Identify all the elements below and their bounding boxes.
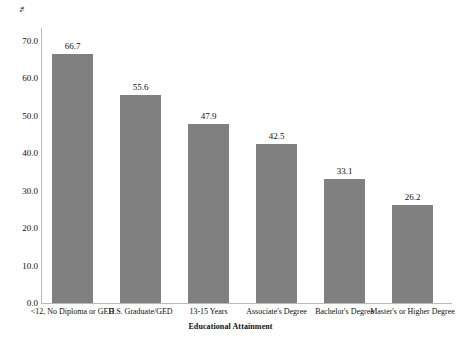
bar (52, 54, 93, 304)
bar (120, 95, 161, 303)
bar-value-label: 66.7 (65, 42, 81, 51)
x-tick-label: Master's or Higher Degree (365, 307, 461, 317)
bar-value-label: 33.1 (337, 167, 353, 176)
bar (256, 144, 297, 303)
bar-value-label: 55.6 (133, 83, 149, 92)
bar-value-label: 26.2 (405, 193, 421, 202)
bar-chart: % 0.0 10.0 20.0 30.0 40.0 50.0 60.0 70.0… (0, 0, 461, 350)
x-axis-title: Educational Attainment (0, 322, 461, 331)
bar-value-label: 47.9 (201, 112, 217, 121)
bar (392, 205, 433, 303)
bar (324, 179, 365, 303)
bar-value-label: 42.5 (269, 132, 285, 141)
bar (188, 124, 229, 303)
bars-layer: 66.7 55.6 47.9 42.5 33.1 26.2 (0, 0, 461, 350)
